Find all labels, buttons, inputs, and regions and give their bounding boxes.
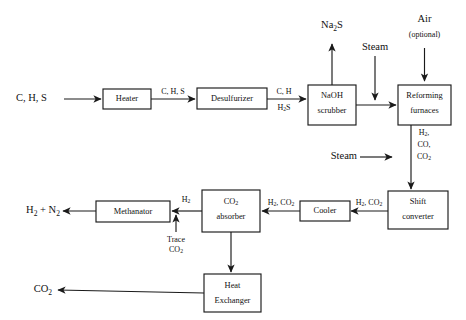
steam-top-stream-label: Steam bbox=[362, 41, 388, 52]
stream-label-desulfurizer-out-hydrocarbon: C, H bbox=[276, 87, 291, 96]
unit-label-absorber-line2: absorber bbox=[217, 212, 246, 221]
feed-stream-label: C, H, S bbox=[16, 92, 47, 103]
trace-co2-label-line1: Trace bbox=[167, 235, 185, 244]
product-stream-label: H2 + N2 bbox=[26, 204, 60, 217]
process-flow-diagram: C, H, S Heater C, H, S Desulfurizer C, H… bbox=[0, 0, 466, 320]
air-stream-label-line1: Air bbox=[418, 13, 433, 24]
unit-label-shift-line2: converter bbox=[402, 212, 434, 221]
unit-label-methanator: Methanator bbox=[114, 207, 153, 216]
unit-label-hx-line2: Exchanger bbox=[215, 296, 251, 305]
stream-label-shift-out: H2, CO2 bbox=[356, 198, 383, 208]
trace-co2-label-line2: CO2 bbox=[169, 245, 183, 255]
arrow-heat-exchanger-to-co2 bbox=[58, 290, 204, 293]
air-stream-label-line2: (optional) bbox=[409, 30, 441, 39]
stream-label-reformer-out-co: CO, bbox=[417, 140, 430, 149]
stream-label-reformer-out-co2: CO2 bbox=[417, 152, 431, 162]
stream-label-heater-out: C, H, S bbox=[161, 87, 185, 96]
unit-label-naoh-scrubber-line1: NaOH bbox=[321, 91, 343, 100]
na2s-stream-label: Na2S bbox=[321, 19, 343, 32]
stream-label-reformer-out-h2: H2, bbox=[419, 128, 430, 138]
unit-box-heat-exchanger[interactable] bbox=[204, 274, 261, 312]
steam-mid-stream-label: Steam bbox=[331, 150, 357, 161]
unit-label-cooler: Cooler bbox=[314, 206, 337, 215]
stream-label-absorber-out: H2 bbox=[182, 195, 191, 205]
unit-label-naoh-scrubber-line2: scrubber bbox=[318, 106, 347, 115]
unit-label-reforming-line2: furnaces bbox=[410, 106, 438, 115]
unit-label-hx-line1: Heat bbox=[225, 281, 241, 290]
unit-label-heater: Heater bbox=[116, 94, 139, 103]
stream-label-desulfurizer-out-h2s: H2S bbox=[277, 103, 290, 113]
stream-label-cooler-out: H2, CO2 bbox=[268, 198, 295, 208]
flow-diagram-canvas: C, H, S Heater C, H, S Desulfurizer C, H… bbox=[0, 0, 466, 320]
unit-label-shift-line1: Shift bbox=[410, 197, 427, 206]
unit-label-desulfurizer: Desulfurizer bbox=[211, 94, 253, 103]
co2-outlet-label: CO2 bbox=[34, 283, 53, 296]
unit-label-reforming-line1: Reforming bbox=[406, 91, 443, 100]
